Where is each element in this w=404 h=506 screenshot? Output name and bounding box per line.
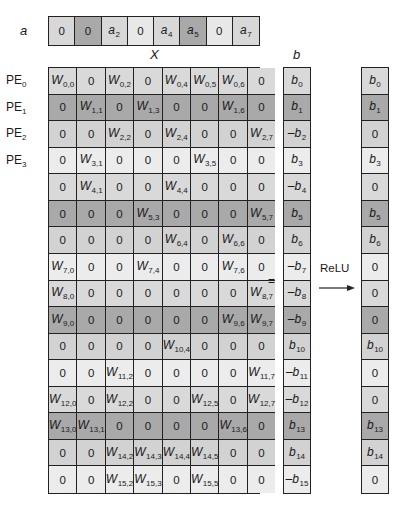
matrix-cell: W15,2 xyxy=(106,466,134,493)
matrix-cell: W7,4 xyxy=(134,254,162,281)
symbol: W13,0 xyxy=(49,418,76,434)
matrix-cell: W9,7 xyxy=(248,307,275,334)
a-cell: 0 xyxy=(207,17,233,45)
matrix-cell: 0 xyxy=(219,466,247,493)
output-cell: b14 xyxy=(362,440,388,467)
subscript: 2,2 xyxy=(120,133,131,142)
matrix-cell: W7,6 xyxy=(219,254,247,281)
subscript: 6,6 xyxy=(233,239,244,248)
symbol: a2 xyxy=(108,23,120,39)
b-cell: –b12 xyxy=(284,387,310,414)
subscript: 5 xyxy=(376,213,380,222)
subscript: 0,6 xyxy=(233,80,244,89)
b-cell: b10 xyxy=(284,334,310,361)
matrix-cell: 0 xyxy=(219,201,247,228)
symbol: –b7 xyxy=(288,259,306,275)
symbol: –b12 xyxy=(286,392,309,408)
b-cell: –b4 xyxy=(284,174,310,201)
matrix-cell: W7,0 xyxy=(49,254,77,281)
matrix-cell: 0 xyxy=(77,466,105,493)
matrix-cell: W11,7 xyxy=(248,360,275,387)
symbol: W2,7 xyxy=(250,126,273,142)
subscript: 13 xyxy=(374,425,383,434)
matrix-cell: 0 xyxy=(49,174,77,201)
matrix-cell: W2,4 xyxy=(163,121,191,148)
matrix-cell: 0 xyxy=(134,413,162,440)
subscript: 12 xyxy=(299,399,308,408)
subscript: 15,3 xyxy=(146,479,162,488)
matrix-cell: 0 xyxy=(163,95,191,122)
matrix-cell: W8,0 xyxy=(49,281,77,308)
subscript: 6 xyxy=(376,239,380,248)
symbol: W7,6 xyxy=(222,259,245,275)
matrix-cell: 0 xyxy=(163,360,191,387)
matrix-cell: 0 xyxy=(106,334,134,361)
matrix-cell: W15,3 xyxy=(134,466,162,493)
matrix-cell: 0 xyxy=(134,227,162,254)
symbol: W9,0 xyxy=(51,312,74,328)
matrix-cell: W14,3 xyxy=(134,440,162,467)
symbol: –b15 xyxy=(286,472,309,488)
subscript: 12,5 xyxy=(203,399,219,408)
subscript: 7 xyxy=(247,30,251,39)
matrix-cell: 0 xyxy=(77,68,105,95)
output-cell: b5 xyxy=(362,201,388,228)
subscript: 0,2 xyxy=(120,80,131,89)
symbol: –b2 xyxy=(288,126,306,142)
matrix-cell: 0 xyxy=(49,227,77,254)
symbol: b5 xyxy=(369,206,381,222)
subscript: 14,2 xyxy=(118,452,134,461)
matrix-cell: 0 xyxy=(134,174,162,201)
matrix-cell: 0 xyxy=(49,466,77,493)
matrix-cell: 0 xyxy=(219,174,247,201)
subscript: 12,7 xyxy=(260,399,276,408)
matrix-cell: 0 xyxy=(163,413,191,440)
matrix-cell: W6,4 xyxy=(163,227,191,254)
matrix-cell: 0 xyxy=(49,334,77,361)
matrix-cell: 0 xyxy=(248,148,275,175)
symbol: W0,0 xyxy=(51,73,74,89)
b-cell: b6 xyxy=(284,227,310,254)
symbol: W12,0 xyxy=(49,392,76,408)
symbol: b0 xyxy=(369,73,381,89)
matrix-cell: 0 xyxy=(163,387,191,414)
symbol: W9,7 xyxy=(250,312,273,328)
output-cell: 0 xyxy=(362,254,388,281)
symbol: b3 xyxy=(369,152,381,168)
matrix-cell: 0 xyxy=(134,307,162,334)
matrix-cell: 0 xyxy=(77,334,105,361)
matrix-cell: 0 xyxy=(163,201,191,228)
matrix-cell: W14,4 xyxy=(163,440,191,467)
equals-sign: = xyxy=(268,274,275,288)
symbol: b1 xyxy=(291,99,303,115)
symbol: b6 xyxy=(291,232,303,248)
subscript: 9,0 xyxy=(63,319,74,328)
matrix-cell: 0 xyxy=(106,174,134,201)
matrix-cell: 0 xyxy=(191,174,219,201)
matrix-cell: W12,2 xyxy=(106,387,134,414)
symbol: W11,2 xyxy=(106,365,133,381)
symbol: W15,5 xyxy=(191,472,218,488)
b-cell: –b11 xyxy=(284,360,310,387)
b-cell: –b8 xyxy=(284,281,310,308)
subscript: 13,0 xyxy=(61,425,77,434)
matrix-cell: W12,5 xyxy=(191,387,219,414)
matrix-cell: W5,3 xyxy=(134,201,162,228)
symbol: W13,1 xyxy=(77,418,104,434)
a-vector-label: a xyxy=(20,23,27,38)
matrix-cell: 0 xyxy=(191,413,219,440)
matrix-cell: 0 xyxy=(191,254,219,281)
matrix-cell: 0 xyxy=(106,201,134,228)
subscript: 1 xyxy=(298,106,302,115)
matrix-cell: 0 xyxy=(49,121,77,148)
subscript: 8,7 xyxy=(262,292,273,301)
matrix-cell: 0 xyxy=(191,281,219,308)
a-cell: 0 xyxy=(75,17,101,45)
matrix-cell: W11,2 xyxy=(106,360,134,387)
symbol: W1,1 xyxy=(80,99,103,115)
subscript: 7,4 xyxy=(148,266,159,275)
matrix-cell: 0 xyxy=(219,334,247,361)
symbol: –b8 xyxy=(288,285,306,301)
b-cell: –b2 xyxy=(284,121,310,148)
subscript: 5 xyxy=(194,30,198,39)
